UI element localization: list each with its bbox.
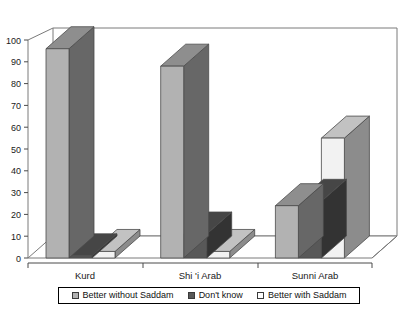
x-tick-label-shii-arab: Shi 'i Arab: [179, 270, 221, 281]
y-axis: 100 90 80 70 60 50 40 30 20 10 0: [6, 36, 28, 264]
chart-legend: Better without Saddam Don't know Better …: [58, 287, 360, 304]
y-tick-label: 70: [11, 101, 21, 111]
y-tick-90: 90: [11, 57, 28, 67]
y-tick-80: 80: [11, 79, 28, 89]
bar-chart-plot: 100 90 80 70 60 50 40 30 20 10 0 Kurd Sh…: [0, 0, 415, 314]
bar-shi-i-arab-series-0: [161, 44, 209, 258]
legend-item-better-without-saddam: Better without Saddam: [72, 291, 174, 300]
y-tick-50: 50: [11, 145, 28, 155]
y-tick-label: 80: [11, 79, 21, 89]
legend-swatch-icon: [72, 292, 79, 299]
y-tick-label: 50: [11, 145, 21, 155]
y-tick-label: 0: [16, 254, 21, 264]
y-tick-30: 30: [11, 188, 28, 198]
y-tick-60: 60: [11, 123, 28, 133]
y-tick-70: 70: [11, 101, 28, 111]
y-tick-label: 40: [11, 166, 21, 176]
chart-container: 100 90 80 70 60 50 40 30 20 10 0 Kurd Sh…: [0, 0, 415, 314]
legend-swatch-icon: [188, 292, 195, 299]
y-tick-label: 90: [11, 57, 21, 67]
y-tick-label: 20: [11, 210, 21, 220]
legend-label: Better without Saddam: [83, 291, 174, 300]
x-axis: Kurd Shi 'i Arab Sunni Arab: [28, 263, 372, 281]
y-tick-label: 10: [11, 232, 21, 242]
legend-label: Better with Saddam: [268, 291, 347, 300]
legend-item-better-with-saddam: Better with Saddam: [257, 291, 347, 300]
legend-swatch-icon: [257, 292, 264, 299]
legend-label: Don't know: [199, 291, 243, 300]
bar-kurd-series-0: [46, 27, 94, 258]
y-tick-label: 60: [11, 123, 21, 133]
y-tick-label: 30: [11, 188, 21, 198]
y-tick-100: 100: [6, 36, 28, 46]
legend-item-dont-know: Don't know: [188, 291, 243, 300]
y-tick-10: 10: [11, 232, 28, 242]
x-tick-label-kurd: Kurd: [75, 270, 95, 281]
y-tick-40: 40: [11, 166, 28, 176]
y-tick-0: 0: [16, 254, 28, 264]
y-tick-label: 100: [6, 36, 21, 46]
y-tick-20: 20: [11, 210, 28, 220]
x-tick-label-sunni-arab: Sunni Arab: [292, 270, 338, 281]
